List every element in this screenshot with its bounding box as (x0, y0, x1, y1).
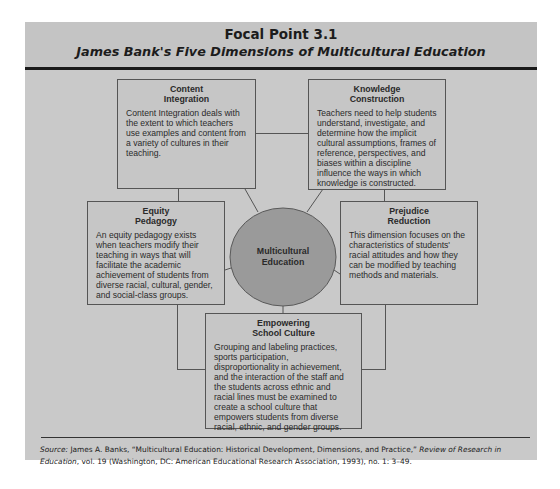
dimension-empowering-school-culture: Empowering School Culture Grouping and l… (205, 313, 362, 429)
hub-label: Multicultural Education (231, 246, 335, 268)
dimension-title: Content Integration (126, 84, 247, 104)
dimension-content-integration: Content Integration Content Integration … (117, 79, 256, 189)
title-line1: Knowledge (317, 84, 437, 94)
title-line2: Construction (317, 94, 437, 104)
title-line1: Empowering (214, 318, 353, 328)
title-line1: Prejudice (349, 206, 469, 216)
source-author-title: James A. Banks, “Multicultural Education… (68, 445, 419, 454)
dimension-title: Prejudice Reduction (349, 206, 469, 226)
hub-label-line2: Education (231, 257, 335, 268)
hub-label-line1: Multicultural (231, 246, 335, 257)
dimension-body: Content Integration deals with the exten… (126, 108, 247, 158)
dimension-title: Equity Pedagogy (96, 206, 216, 226)
title-line1: Equity (96, 206, 216, 216)
dimension-body: This dimension focuses on the characteri… (349, 230, 469, 280)
source-label: Source: (40, 445, 68, 454)
title-line1: Content (126, 84, 247, 94)
dimension-body: Teachers need to help students understan… (317, 108, 437, 188)
source-details: , vol. 19 (Washington, DC: American Educ… (77, 457, 412, 466)
dimension-title: Knowledge Construction (317, 84, 437, 104)
dimension-equity-pedagogy: Equity Pedagogy An equity pedagogy exist… (87, 201, 225, 305)
title-line2: Integration (126, 94, 247, 104)
dimension-prejudice-reduction: Prejudice Reduction This dimension focus… (340, 201, 478, 305)
dimension-title: Empowering School Culture (214, 318, 353, 338)
dimension-body: Grouping and labeling practices, sports … (214, 342, 353, 432)
title-line2: School Culture (214, 328, 353, 338)
source-citation: Source: James A. Banks, “Multicultural E… (40, 444, 532, 468)
dimension-body: An equity pedagogy exists when teachers … (96, 230, 216, 300)
dimension-knowledge-construction: Knowledge Construction Teachers need to … (308, 79, 446, 190)
source-divider (41, 437, 530, 438)
title-line2: Pedagogy (96, 216, 216, 226)
title-line2: Reduction (349, 216, 469, 226)
